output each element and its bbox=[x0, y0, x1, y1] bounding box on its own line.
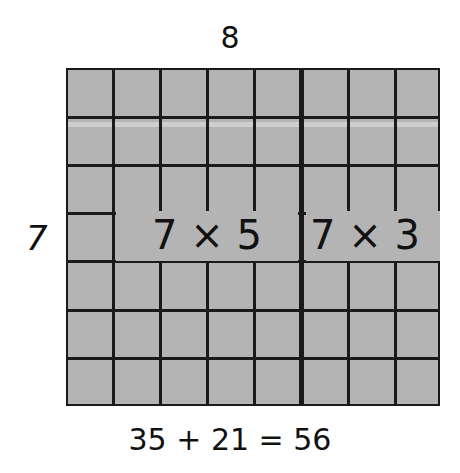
grid-line bbox=[68, 357, 438, 360]
left-part-label: 7 × 5 bbox=[116, 211, 298, 261]
right-part-label: 7 × 3 bbox=[306, 211, 440, 261]
top-dimension-label: 8 bbox=[0, 18, 460, 58]
side-dimension-label: 7 bbox=[26, 218, 48, 258]
grid-line bbox=[68, 309, 438, 312]
area-model-grid: 7 × 5 7 × 3 bbox=[66, 68, 440, 406]
sum-equation: 35 + 21 = 56 bbox=[0, 420, 460, 460]
grid-line bbox=[68, 116, 438, 119]
split-divider bbox=[299, 70, 304, 404]
grid-line bbox=[112, 70, 115, 404]
grid-line bbox=[68, 164, 438, 167]
